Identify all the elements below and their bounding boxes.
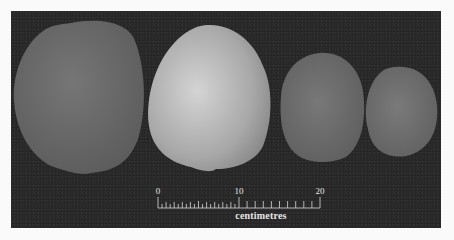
- caption-strip: [0, 230, 454, 240]
- scale-unit-label: centimetres: [235, 211, 286, 220]
- scale-tick-0: 0: [156, 187, 161, 196]
- photo-frame: 0 10 20 centimetres: [11, 11, 441, 228]
- scale-bar: [11, 11, 441, 228]
- scale-tick-10: 10: [235, 187, 244, 196]
- scale-tick-20: 20: [316, 187, 325, 196]
